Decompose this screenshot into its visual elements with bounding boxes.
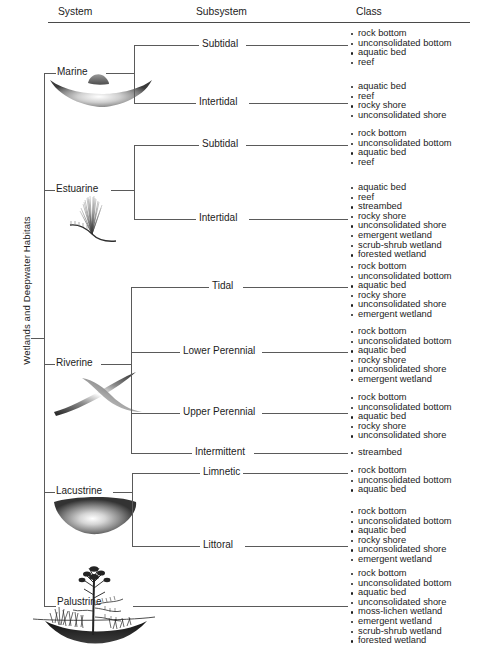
- class-connector-lacustrine-littoral: [245, 546, 348, 547]
- class-connector-estuarine-subtidal: [246, 145, 348, 146]
- class-connector-riverine-lower-perennial: [262, 352, 348, 353]
- subsystem-label-riverine-upper-perennial[interactable]: Upper Perennial: [180, 406, 258, 417]
- column-header-class: Class: [356, 6, 382, 17]
- class-connector-lacustrine-limnetic: [243, 473, 348, 474]
- subsystem-branch-marine-intertidal: [134, 103, 199, 104]
- class-item: reef: [351, 58, 479, 68]
- class-item: streambed: [351, 448, 479, 458]
- subsystem-branch-lacustrine-littoral: [132, 546, 202, 547]
- class-list-marine-subtidal: rock bottomunconsolidated bottomaquatic …: [351, 29, 479, 67]
- system-stem-estuarine: [111, 190, 134, 191]
- class-connector-estuarine-intertidal: [249, 219, 348, 220]
- class-item: unconsolidated shore: [351, 431, 479, 441]
- subsystem-branch-estuarine-intertidal: [134, 219, 199, 220]
- class-item: emergent wetland: [351, 310, 479, 320]
- system-stem-lacustrine: [113, 492, 132, 493]
- class-list-estuarine-intertidal: aquatic bedreefstreambedrocky shoreuncon…: [351, 183, 479, 260]
- subsystem-label-lacustrine-limnetic[interactable]: Limnetic: [200, 466, 243, 477]
- vertical-axis-title: Wetlands and Deepwater Habitats: [21, 181, 32, 401]
- column-header-system: System: [58, 6, 92, 17]
- subsystem-branch-riverine-tidal: [131, 287, 212, 288]
- palustrine-swamp-illustration: [25, 565, 165, 653]
- class-item: forested wetland: [351, 636, 479, 646]
- root-connector: [31, 338, 45, 339]
- system-stem-riverine: [101, 364, 131, 365]
- class-connector-marine-subtidal: [246, 45, 348, 46]
- class-list-palustrine: rock bottomunconsolidated bottomaquatic …: [351, 569, 479, 646]
- class-list-estuarine-subtidal: rock bottomunconsolidated bottomaquatic …: [351, 129, 479, 167]
- subsystem-label-riverine-lower-perennial[interactable]: Lower Perennial: [180, 345, 258, 356]
- class-item: reef: [351, 158, 479, 168]
- subsystem-label-marine-intertidal[interactable]: Intertidal: [196, 96, 240, 107]
- subsystem-label-marine-subtidal[interactable]: Subtidal: [199, 38, 241, 49]
- subsystem-bracket-estuarine: [134, 145, 135, 219]
- root-spine: [44, 73, 45, 607]
- class-list-riverine-tidal: rock bottomunconsolidated bottomaquatic …: [351, 262, 479, 320]
- subsystem-label-riverine-intermittent[interactable]: Intermittent: [192, 446, 248, 457]
- class-item: unconsolidated shore: [351, 111, 479, 121]
- wetlands-classification-figure: Wetlands and Deepwater Habitats System S…: [0, 0, 479, 657]
- subsystem-branch-riverine-upper-perennial: [131, 413, 182, 414]
- marine-basin-illustration: [48, 67, 156, 107]
- class-list-lacustrine-limnetic: rock bottomunconsolidated bottomaquatic …: [351, 466, 479, 495]
- column-header-subsystem: Subsystem: [196, 6, 247, 17]
- class-connector-palustrine: [133, 606, 348, 607]
- class-connector-riverine-upper-perennial: [262, 413, 348, 414]
- class-connector-riverine-intermittent: [254, 453, 348, 454]
- subsystem-label-riverine-tidal[interactable]: Tidal: [209, 280, 236, 291]
- class-list-lacustrine-littoral: rock bottomunconsolidated bottomaquatic …: [351, 507, 479, 565]
- subsystem-branch-marine-subtidal: [134, 45, 201, 46]
- subsystem-bracket-riverine: [131, 287, 132, 453]
- class-list-riverine-lower-perennial: rock bottomunconsolidated bottomaquatic …: [351, 327, 479, 385]
- lacustrine-lake-illustration: [50, 494, 145, 539]
- class-list-marine-intertidal: aquatic bedreefrocky shoreunconsolidated…: [351, 82, 479, 120]
- subsystem-branch-estuarine-subtidal: [134, 145, 201, 146]
- header-rule: [48, 22, 470, 23]
- subsystem-bracket-lacustrine: [132, 473, 133, 546]
- class-list-riverine-intermittent: streambed: [351, 448, 479, 458]
- class-item: aquatic bed: [351, 485, 479, 495]
- class-item: forested wetland: [351, 250, 479, 260]
- subsystem-bracket-marine: [134, 45, 135, 103]
- subsystem-label-estuarine-intertidal[interactable]: Intertidal: [196, 212, 240, 223]
- subsystem-branch-riverine-lower-perennial: [131, 352, 182, 353]
- class-item: emergent wetland: [351, 555, 479, 565]
- subsystem-label-estuarine-subtidal[interactable]: Subtidal: [199, 138, 241, 149]
- class-connector-riverine-tidal: [243, 287, 348, 288]
- class-list-riverine-upper-perennial: rock bottomunconsolidated bottomaquatic …: [351, 393, 479, 441]
- estuarine-marsh-illustration: [58, 192, 128, 252]
- class-connector-marine-intertidal: [249, 103, 348, 104]
- system-label-riverine[interactable]: Riverine: [55, 357, 94, 368]
- subsystem-branch-lacustrine-limnetic: [132, 473, 202, 474]
- subsystem-branch-riverine-intermittent: [131, 453, 194, 454]
- class-item: emergent wetland: [351, 375, 479, 385]
- subsystem-label-lacustrine-littoral[interactable]: Littoral: [200, 539, 236, 550]
